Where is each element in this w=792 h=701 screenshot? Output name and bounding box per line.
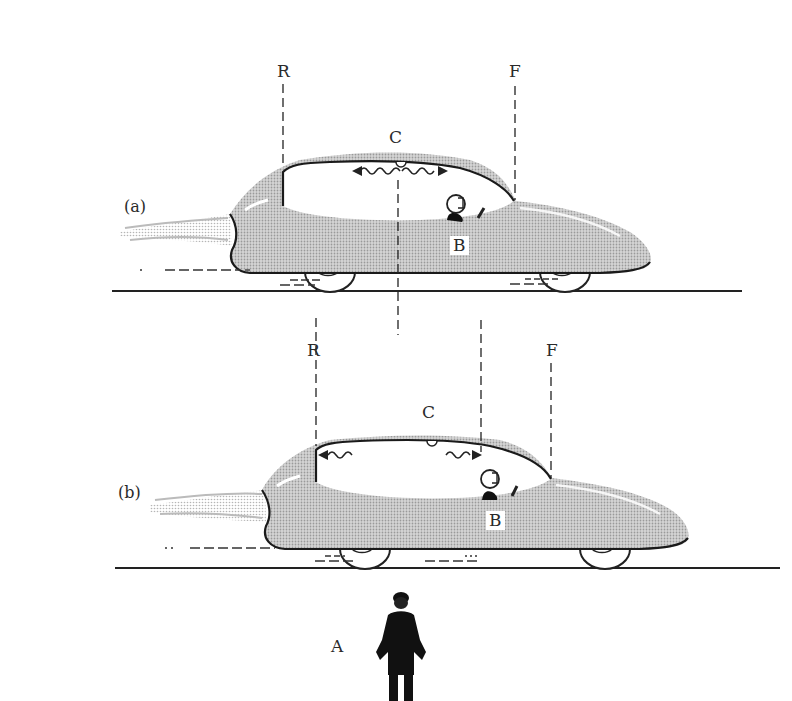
rear-marker-label-b: R	[307, 342, 320, 359]
front-marker-label-a: F	[509, 63, 521, 80]
observer-figure	[376, 592, 426, 701]
front-marker-label-b: F	[546, 342, 558, 359]
center-marker-label-a: C	[389, 129, 402, 146]
exhaust-plume-a	[120, 214, 232, 246]
exhaust-plume-b	[150, 490, 266, 522]
observer-label: A	[331, 638, 343, 655]
rear-wheel-b	[340, 549, 390, 569]
car-label-b: B	[486, 511, 505, 530]
panel-label-b: (b)	[118, 485, 141, 501]
rear-wheel-a	[305, 272, 355, 292]
rear-marker-label-a: R	[277, 63, 290, 80]
center-marker-label-b: C	[422, 404, 435, 421]
relativity-diagram	[0, 0, 792, 701]
panel-label-a: (a)	[124, 199, 146, 215]
panel-a	[112, 84, 742, 335]
front-wheel-b	[580, 549, 630, 569]
front-wheel-a	[540, 272, 590, 292]
car-label-a: B	[450, 236, 469, 255]
panel-b	[115, 318, 780, 569]
